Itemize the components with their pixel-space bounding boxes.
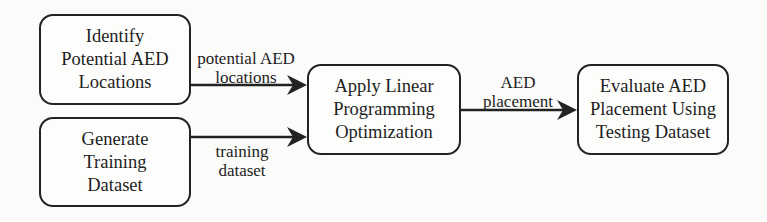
edge-label-aed-placement: AED placement [470,73,566,111]
edge-label-potential-aed-locations: potential AED locations [186,49,306,87]
node-evaluate-aed-placement: Evaluate AED Placement Using Testing Dat… [577,64,729,155]
node-identify-potential-aed-locations: Identify Potential AED Locations [39,14,191,105]
node-label: Generate Training Dataset [82,128,149,197]
node-label: Evaluate AED Placement Using Testing Dat… [590,75,716,144]
node-label: Apply Linear Programming Optimization [333,75,435,144]
node-generate-training-dataset: Generate Training Dataset [39,117,191,207]
node-label: Identify Potential AED Locations [61,25,168,94]
edge-label-training-dataset: training dataset [196,142,288,180]
node-apply-linear-programming-optimization: Apply Linear Programming Optimization [307,64,461,155]
